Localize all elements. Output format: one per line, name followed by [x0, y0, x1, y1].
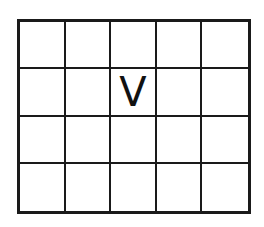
grid-cell-r4-c5: [202, 164, 248, 211]
grid-cell-r4-c3: [111, 164, 157, 211]
grid-cell-r1-c2: [66, 22, 112, 69]
letter-grid: V: [17, 19, 251, 214]
grid-cell-r3-c3: [111, 117, 157, 164]
grid-cell-r4-c4: [157, 164, 203, 211]
grid-cell-r3-c5: [202, 117, 248, 164]
grid-cell-r2-c4: [157, 69, 203, 116]
grid-cell-r1-c3: [111, 22, 157, 69]
grid-cell-r2-c3-letter: V: [111, 69, 157, 116]
grid-cell-r1-c1: [20, 22, 66, 69]
grid-cell-r2-c2: [66, 69, 112, 116]
grid-cell-r3-c4: [157, 117, 203, 164]
grid-cell-r2-c1: [20, 69, 66, 116]
grid-cell-r1-c5: [202, 22, 248, 69]
grid-cell-r1-c4: [157, 22, 203, 69]
grid-cell-r3-c1: [20, 117, 66, 164]
grid-cell-r2-c5: [202, 69, 248, 116]
grid-cell-r4-c1: [20, 164, 66, 211]
grid-cell-r4-c2: [66, 164, 112, 211]
grid-cell-r3-c2: [66, 117, 112, 164]
